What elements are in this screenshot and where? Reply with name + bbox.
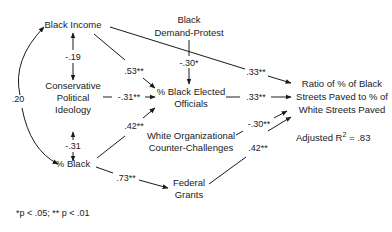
edge-pctblack-officials-arrow bbox=[143, 108, 155, 118]
edge-income-pctblack-lower bbox=[22, 108, 58, 164]
edge-income-pctblack bbox=[18, 27, 44, 95]
node-black-officials-line2: Officials bbox=[174, 98, 208, 109]
coef-whiteorg-outcome: -.30** bbox=[248, 119, 271, 129]
coef-pctblack-federal: .73** bbox=[116, 173, 136, 183]
node-outcome-line3: White Streets Paved bbox=[299, 104, 386, 115]
edge-income-outcome-arrow bbox=[268, 76, 291, 83]
node-federal-grants-line2: Grants bbox=[175, 189, 204, 200]
node-white-org-line2: Counter-Challenges bbox=[149, 142, 234, 153]
node-outcome-line2: Streets Paved to % of bbox=[296, 91, 388, 102]
adjusted-r-squared: Adjusted R2 = .83 bbox=[296, 131, 370, 143]
coefficients: -.19 .20 -.31 .53** -.31** .42** -.30* .… bbox=[12, 52, 271, 183]
edge-pctblack-federal bbox=[96, 167, 113, 173]
node-outcome-line1: Ratio of % of Black bbox=[302, 78, 383, 89]
edge-income-officials-arrow bbox=[143, 78, 155, 88]
coef-federal-outcome: .42** bbox=[248, 143, 268, 153]
node-black-officials-line1: % Black Elected bbox=[157, 86, 226, 97]
node-demand-protest-line2: Demand-Protest bbox=[154, 27, 224, 38]
coef-income-ideology: -.19 bbox=[65, 52, 81, 62]
coef-income-pctblack: .20 bbox=[12, 94, 25, 104]
nodes: Black Income Conservative Political Ideo… bbox=[44, 14, 388, 200]
coef-officials-outcome: .33** bbox=[246, 92, 266, 102]
node-conservative-ideology-line2: Political bbox=[57, 92, 90, 103]
node-conservative-ideology-line1: Conservative bbox=[45, 80, 100, 91]
r-squared-label: Adjusted R bbox=[296, 132, 343, 143]
coef-income-officials: .53** bbox=[124, 66, 144, 76]
edge-federal-outcome bbox=[209, 157, 246, 184]
significance-footnote: *p < .05; ** p < .01 bbox=[16, 208, 90, 218]
coef-ideology-pctblack: -.31 bbox=[65, 141, 81, 151]
node-federal-grants-line1: Federal bbox=[173, 177, 205, 188]
r-squared-value: = .83 bbox=[346, 132, 370, 143]
edge-federal-outcome-arrow bbox=[268, 117, 291, 131]
node-white-org-line1: White Organizational bbox=[147, 130, 235, 141]
edge-whiteorg-outcome-arrow bbox=[274, 111, 287, 118]
node-conservative-ideology-line3: Ideology bbox=[55, 104, 91, 115]
node-pct-black: % Black bbox=[56, 158, 91, 169]
node-demand-protest-line1: Black bbox=[177, 14, 200, 25]
node-black-income: Black Income bbox=[44, 19, 101, 30]
coef-income-outcome: .33** bbox=[246, 67, 266, 77]
coef-ideology-officials: -.31** bbox=[118, 92, 141, 102]
path-diagram: Black Income Conservative Political Ideo… bbox=[0, 0, 392, 232]
edge-pctblack-officials bbox=[97, 136, 125, 158]
edge-whiteorg-outcome bbox=[236, 131, 243, 135]
edge-income-officials bbox=[94, 34, 125, 60]
edge-pctblack-federal-arrow bbox=[139, 180, 168, 188]
coef-pctblack-officials: .42** bbox=[124, 121, 144, 131]
coef-protest-officials: -.30* bbox=[179, 58, 199, 68]
